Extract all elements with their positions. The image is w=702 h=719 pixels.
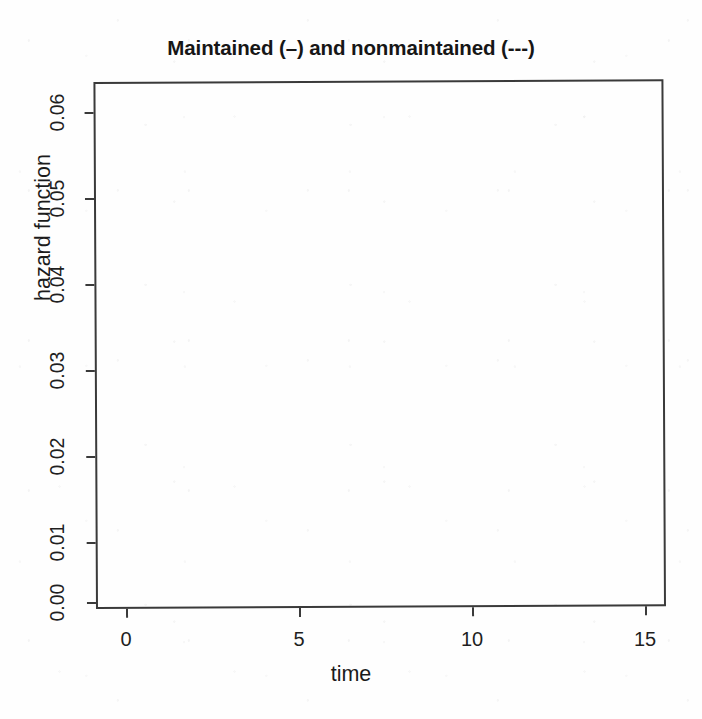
y-tick-mark-0.03 bbox=[86, 370, 95, 372]
plot-frame-wrapper bbox=[93, 79, 666, 609]
x-tick-label-5: 5 bbox=[259, 628, 339, 651]
y-tick-mark-0.04 bbox=[85, 284, 94, 286]
x-tick-mark-15 bbox=[645, 606, 647, 615]
chart-title: Maintained (–) and nonmaintained (---) bbox=[0, 36, 702, 60]
y-tick-mark-0.06 bbox=[85, 112, 94, 114]
chart-figure: Maintained (–) and nonmaintained (---) 0… bbox=[0, 0, 702, 719]
x-tick-label-0: 0 bbox=[86, 628, 166, 651]
x-axis-title: time bbox=[0, 662, 702, 687]
y-tick-label-0.02: 0.02 bbox=[46, 422, 69, 492]
y-axis-title: hazard function bbox=[31, 128, 56, 328]
y-tick-label-0.00: 0.00 bbox=[46, 568, 69, 638]
y-tick-mark-0.02 bbox=[86, 456, 95, 458]
x-tick-label-10: 10 bbox=[432, 628, 512, 651]
x-tick-label-15: 15 bbox=[605, 628, 685, 651]
y-tick-mark-0.05 bbox=[85, 198, 94, 200]
x-tick-mark-5 bbox=[299, 608, 301, 617]
x-tick-mark-0 bbox=[126, 609, 128, 618]
x-tick-mark-10 bbox=[472, 607, 474, 616]
y-tick-label-0.03: 0.03 bbox=[46, 336, 69, 406]
y-tick-mark-0.00 bbox=[87, 602, 96, 604]
y-tick-mark-0.01 bbox=[87, 542, 96, 544]
series-layer-nonmaintained bbox=[93, 79, 666, 609]
plot-area bbox=[93, 79, 666, 609]
